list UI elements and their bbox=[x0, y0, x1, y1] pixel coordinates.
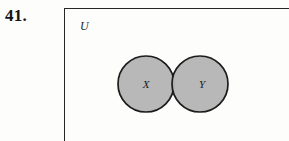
set-label-x: X bbox=[142, 78, 151, 90]
venn-circles-group: X Y bbox=[110, 40, 240, 130]
universal-set-label: U bbox=[80, 20, 89, 32]
venn-diagram-figure: 41. U X Y bbox=[0, 0, 289, 141]
exercise-number-label: 41. bbox=[5, 7, 27, 24]
